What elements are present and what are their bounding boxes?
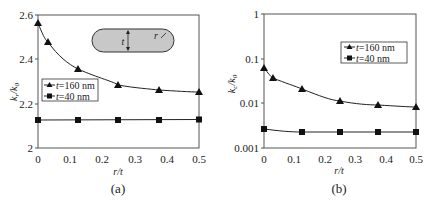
x-tick: 0.1	[287, 153, 301, 165]
y-tick: 2.6	[19, 9, 33, 21]
chart-a: 2 2.2 2.4 2.6 0 0.1 0.2 0.3 0.4 0.5 r/t …	[0, 0, 215, 201]
y-axis-label-b: kc/k0	[226, 74, 239, 93]
y-tick: 1	[254, 8, 260, 20]
y-axis-b: 0.001 0.01 0.1 1	[234, 8, 264, 154]
y-axis-a: 2 2.2 2.4 2.6	[19, 9, 38, 154]
x-tick: 0	[261, 153, 267, 165]
x-tick: 0.4	[379, 153, 393, 165]
legend-item-t40: t=40 nm	[56, 91, 90, 102]
y-tick: 2	[28, 142, 34, 154]
markers-t40-b	[261, 126, 419, 135]
inset-r-label: r	[154, 30, 158, 41]
y-tick: 2.4	[19, 53, 33, 65]
legend-b: t=160 nm t=40 nm	[341, 42, 407, 64]
chart-b: 0.001 0.01 0.1 1 0 0.1 0.2 0.3 0.4 0.5 r…	[215, 0, 431, 201]
x-tick: 0.1	[63, 153, 77, 165]
x-tick: 0.3	[348, 153, 362, 165]
x-axis-b: 0 0.1 0.2 0.3 0.4 0.5	[261, 153, 423, 165]
legend-item-t160: t=160 nm	[356, 42, 395, 53]
y-tick: 0.001	[234, 142, 259, 154]
x-tick: 0.4	[160, 153, 174, 165]
x-axis-label-a: r/t	[113, 166, 123, 177]
panel-label-a: (a)	[111, 181, 125, 196]
x-tick: 0.2	[318, 153, 332, 165]
y-tick: 2.2	[19, 98, 33, 110]
legend-item-t160: t=160 nm	[56, 80, 95, 91]
x-tick: 0.5	[192, 153, 206, 165]
x-tick: 0.5	[409, 153, 423, 165]
x-tick: 0.2	[95, 153, 109, 165]
x-tick: 0.3	[128, 153, 142, 165]
x-axis-a: 0 0.1 0.2 0.3 0.4 0.5	[35, 153, 206, 165]
y-tick: 0.1	[245, 53, 259, 65]
inset-cross-section: t r	[92, 29, 174, 52]
x-axis-label-b: r/t	[334, 165, 344, 176]
panel-label-b: (b)	[331, 181, 346, 196]
markers-t160-b	[260, 64, 420, 110]
x-tick: 0	[35, 153, 41, 165]
inset-t-label: t	[122, 36, 125, 47]
plot-frame-b	[264, 14, 416, 148]
legend-a: t=160 nm t=40 nm	[42, 79, 98, 102]
legend-item-t40: t=40 nm	[356, 53, 390, 64]
y-tick: 0.01	[240, 97, 259, 109]
